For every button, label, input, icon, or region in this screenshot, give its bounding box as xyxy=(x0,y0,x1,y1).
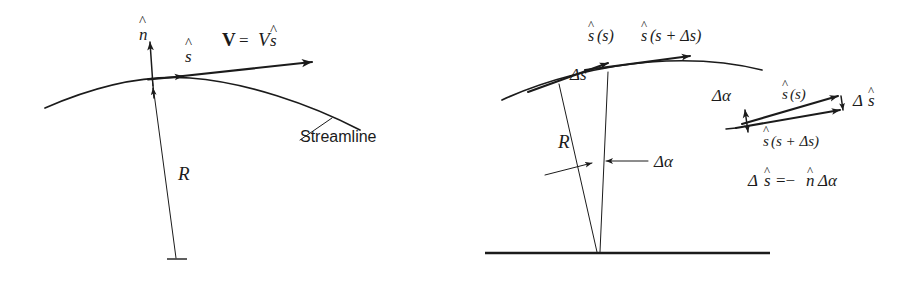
delta-alpha-label: Δα xyxy=(653,152,674,171)
inset-delta-s-hat-letter: s xyxy=(868,91,875,110)
left-panel-group: ^ n ^ s V = V ^ s R Streamline xyxy=(45,13,377,259)
tangent-at-s-label: ^ s (s) xyxy=(588,17,614,45)
tangent-at-s-argument: (s) xyxy=(597,27,614,45)
inset-delta-s-hat-arrow xyxy=(841,96,843,110)
streamline-label: Streamline xyxy=(300,128,377,145)
velocity-equals-sign: = xyxy=(239,31,249,50)
radius-pointer-arrow xyxy=(545,163,592,175)
tangent-at-s-plus-ds-arrow xyxy=(585,56,690,70)
inset-tangent-at-s-plus-ds-arrow xyxy=(736,110,840,128)
inset-vector-tail xyxy=(726,128,736,129)
inset-tangent-at-s-argument: (s) xyxy=(790,86,806,103)
equation-lhs-delta: Δ xyxy=(747,171,758,190)
inset-tangent-at-s-letter: s xyxy=(782,86,788,102)
figure-root: ^ n ^ s V = V ^ s R Streamline xyxy=(0,0,924,283)
inset-delta-s-hat-label: Δ ^ s xyxy=(852,83,875,110)
radius-label: R xyxy=(177,163,190,184)
figure-canvas: ^ n ^ s V = V ^ s R Streamline xyxy=(0,0,924,283)
tangent-letter: s xyxy=(185,47,192,66)
streamline-curve xyxy=(45,77,360,130)
normal-vector-label: ^ n xyxy=(139,13,148,44)
inset-tangent-at-s-plus-letter: s xyxy=(763,133,769,149)
inset-tangent-at-s-label: ^ s (s) xyxy=(782,76,806,103)
velocity-label: V = V ^ s xyxy=(222,22,277,50)
equation-rhs-tail: Δα xyxy=(817,171,838,190)
inset-tangent-at-s-plus-argument: (s + Δs) xyxy=(771,133,819,150)
equation-rhs-letter: n xyxy=(806,171,815,190)
velocity-unit-vector: s xyxy=(270,31,277,50)
velocity-bold-v: V xyxy=(222,29,236,50)
normal-letter: n xyxy=(139,25,148,44)
radial-line-right xyxy=(600,72,608,252)
tangent-at-s-arrow xyxy=(528,63,608,92)
right-panel-group: ^ s (s) ^ s (s + Δs) Δs R Δα xyxy=(485,17,770,253)
arc-length-label: Δs xyxy=(569,65,587,84)
tangent-at-s-plus-ds-label: ^ s (s + Δs) xyxy=(641,17,701,45)
inset-delta-alpha-marker xyxy=(745,110,748,132)
normal-vector-lower-arrowhead xyxy=(153,88,154,98)
inset-delta-alpha-label: Δα xyxy=(711,86,732,105)
right-radius-label: R xyxy=(557,131,570,152)
velocity-vector-arrow xyxy=(176,62,312,77)
equation-relation: =− xyxy=(776,171,795,190)
radial-line-left xyxy=(559,84,597,252)
tangent-at-s-letter: s xyxy=(588,27,594,44)
equation-lhs-letter: s xyxy=(764,171,771,190)
radius-line xyxy=(152,78,176,258)
tangent-vector-label: ^ s xyxy=(185,35,192,66)
inset-equation: Δ ^ s =− ^ n Δα xyxy=(747,163,838,190)
inset-tangent-at-s-plus-ds-label: ^ s (s + Δs) xyxy=(763,122,819,150)
inset-detail-group: Δα ^ s (s) ^ s (s + Δs) Δ ^ s Δ xyxy=(711,76,875,190)
tangent-at-s-plus-argument: (s + Δs) xyxy=(650,27,701,45)
inset-delta-s-hat-delta: Δ xyxy=(852,91,863,110)
tangent-at-s-plus-letter: s xyxy=(641,27,647,44)
